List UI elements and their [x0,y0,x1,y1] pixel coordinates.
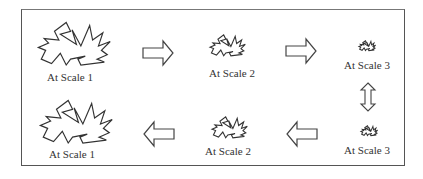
shape-scale-1-bottom-icon [40,99,114,143]
arrow-left-icon [143,121,175,147]
shape-scale-2-bottom-icon [212,116,248,138]
label-bottom-scale-2: At Scale 2 [205,145,251,157]
label-top-scale-1: At Scale 1 [47,71,93,83]
shape-scale-3-bottom-icon [361,125,378,136]
label-top-scale-2: At Scale 2 [209,67,255,79]
shape-scale-1-top-icon [38,21,112,65]
arrow-up-down-icon [360,82,376,112]
arrow-right-icon [285,38,317,64]
shape-scale-3-top-icon [359,40,376,51]
label-bottom-scale-3: At Scale 3 [344,144,390,156]
label-top-scale-3: At Scale 3 [344,59,390,71]
arrow-right-icon [142,40,174,66]
shape-scale-2-top-icon [210,34,246,56]
arrow-left-icon [286,121,318,147]
label-bottom-scale-1: At Scale 1 [49,148,95,160]
